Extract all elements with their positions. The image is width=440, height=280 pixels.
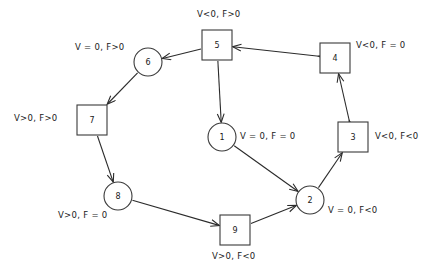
node-9[interactable]: 9: [220, 215, 250, 245]
edge-9-to-2: [251, 206, 296, 224]
state-label-9: V>0, F<0: [212, 251, 256, 261]
node-label: 6: [145, 58, 150, 67]
edge-4-to-5: [233, 47, 319, 56]
state-label-2: V = 0, F<0: [328, 205, 378, 215]
edge-3-to-4: [339, 74, 350, 121]
state-label-4: V<0, F = 0: [356, 40, 406, 50]
node-label: 4: [332, 54, 337, 63]
edge-1-to-2: [234, 146, 298, 192]
node-label: 5: [214, 41, 219, 50]
node-3[interactable]: 3: [338, 122, 368, 152]
node-1[interactable]: 1: [208, 123, 236, 151]
node-label: 1: [219, 133, 224, 142]
node-label: 9: [232, 226, 237, 235]
node-label: 2: [307, 196, 312, 205]
node-5[interactable]: 5: [202, 30, 232, 60]
edge-7-to-8: [97, 136, 113, 182]
node-label: 3: [350, 133, 355, 142]
state-diagram: 123456789 V<0, F>0V<0, F = 0V = 0, F>0V>…: [0, 0, 440, 280]
edge-5-to-1: [218, 61, 221, 122]
node-label: 7: [89, 116, 94, 125]
node-4[interactable]: 4: [320, 43, 350, 73]
node-6[interactable]: 6: [134, 48, 162, 76]
node-label: 8: [115, 192, 120, 201]
node-2[interactable]: 2: [296, 186, 324, 214]
diagram-canvas: 123456789 V<0, F>0V<0, F = 0V = 0, F>0V>…: [0, 0, 440, 280]
state-label-5: V<0, F>0: [197, 9, 241, 19]
state-label-7: V>0, F>0: [14, 113, 58, 123]
node-7[interactable]: 7: [77, 105, 107, 135]
edge-5-to-6: [163, 49, 201, 58]
edge-2-to-3: [318, 153, 342, 188]
edge-6-to-7: [107, 73, 137, 104]
state-label-8: V>0, F = 0: [58, 210, 108, 220]
state-label-3: V<0, F<0: [375, 131, 419, 141]
state-label-6: V = 0, F>0: [75, 42, 125, 52]
edge-8-to-9: [132, 200, 219, 225]
node-8[interactable]: 8: [104, 182, 132, 210]
node-layer: 123456789: [77, 30, 368, 245]
state-label-1: V = 0, F = 0: [240, 131, 296, 141]
